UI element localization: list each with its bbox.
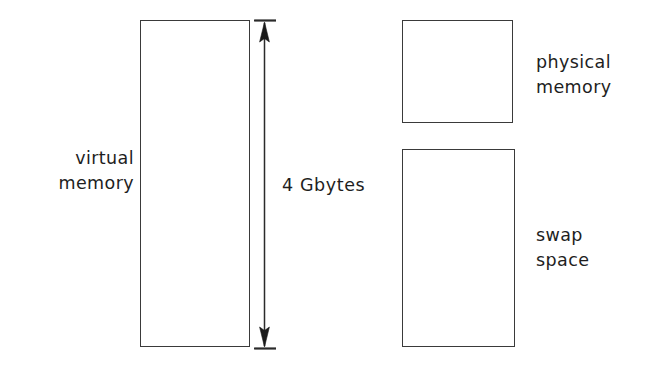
virtual-memory-label: virtual memory [58, 146, 134, 196]
swap-space-label: swap space [536, 223, 589, 273]
physical-memory-box [402, 20, 513, 123]
virtual-memory-box [140, 20, 250, 347]
dimension-arrow-vertical [252, 14, 278, 356]
dimension-label: 4 Gbytes [282, 173, 365, 198]
dimension-arrow-icon [252, 14, 278, 356]
diagram-canvas: virtual memory 4 Gbytes physical memory … [0, 0, 652, 370]
physical-memory-label: physical memory [536, 50, 612, 100]
swap-space-box [402, 149, 515, 347]
